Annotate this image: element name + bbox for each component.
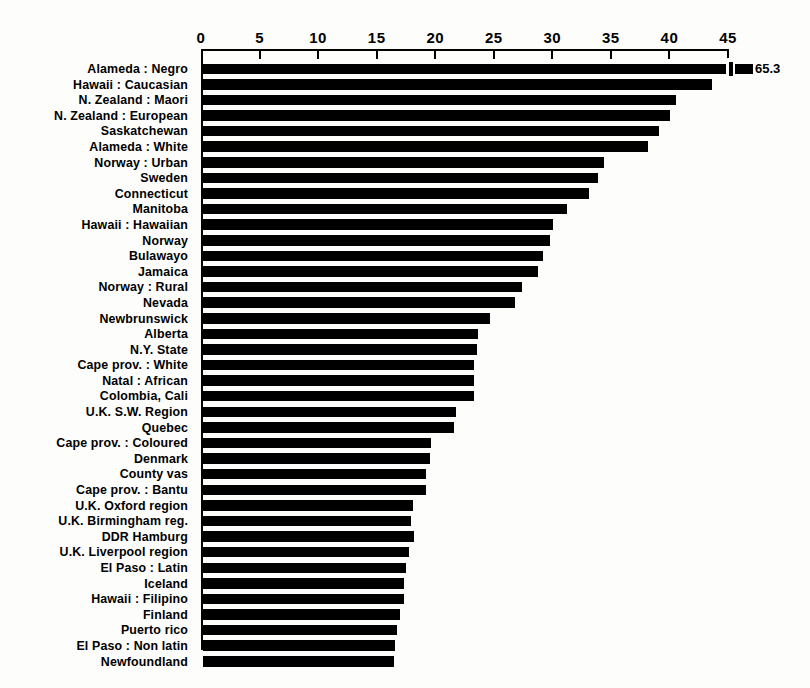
bar-row — [203, 140, 803, 156]
x-axis-tick-mark — [493, 50, 495, 59]
bar — [203, 547, 409, 558]
bar — [203, 500, 413, 511]
x-axis-tick-label: 35 — [602, 30, 620, 45]
bar — [203, 204, 567, 215]
bar-chart-figure: 051015202530354045 Alameda : NegroHawaii… — [0, 0, 810, 688]
bar-row — [203, 358, 803, 374]
bar — [203, 469, 426, 480]
category-label: Bulawayo — [0, 249, 196, 265]
category-label: Hawaii : Caucasian — [0, 78, 196, 94]
bar — [203, 235, 550, 246]
bar-row — [203, 639, 803, 655]
bar — [203, 95, 676, 106]
category-label: Norway : Urban — [0, 156, 196, 172]
x-axis-tick-mark — [668, 50, 670, 59]
bar — [203, 297, 515, 308]
bar-row — [203, 93, 803, 109]
bar-series: 65.3 — [203, 62, 803, 670]
bar-row — [203, 608, 803, 624]
x-axis-tick-label: 15 — [368, 30, 386, 45]
x-axis-tick-label: 45 — [719, 30, 737, 45]
x-axis-tick-mark — [610, 50, 612, 59]
bar — [203, 563, 406, 574]
category-label: Cape prov. : Coloured — [0, 436, 196, 452]
category-label: DDR Hamburg — [0, 530, 196, 546]
bar-row: 65.3 — [203, 62, 803, 78]
bar — [203, 407, 456, 418]
category-label: U.K. S.W. Region — [0, 405, 196, 421]
bar — [203, 344, 477, 355]
bar-row — [203, 312, 803, 328]
bar — [203, 656, 394, 667]
bar-row — [203, 421, 803, 437]
bar — [203, 485, 426, 496]
bar-row — [203, 109, 803, 125]
x-axis-tick-mark — [317, 50, 319, 59]
bar-row — [203, 592, 803, 608]
bar — [203, 422, 454, 433]
bar — [203, 438, 431, 449]
bar — [203, 141, 648, 152]
category-label: Denmark — [0, 452, 196, 468]
bar — [203, 578, 404, 589]
category-label: Hawaii : Filipino — [0, 592, 196, 608]
category-label: N. Zealand : Maori — [0, 93, 196, 109]
bar — [203, 391, 474, 402]
bar-row — [203, 545, 803, 561]
category-label: Quebec — [0, 421, 196, 437]
x-axis-right-cap — [727, 49, 729, 58]
bar-row — [203, 187, 803, 203]
bar — [203, 219, 553, 230]
category-label: Alberta — [0, 327, 196, 343]
bar-row — [203, 577, 803, 593]
bar — [203, 79, 712, 90]
x-axis-tick-mark — [259, 50, 261, 59]
bar-row — [203, 530, 803, 546]
category-label: Nevada — [0, 296, 196, 312]
category-label: Finland — [0, 608, 196, 624]
bar-row — [203, 452, 803, 468]
bar — [203, 266, 538, 277]
x-axis-tick-label: 20 — [426, 30, 444, 45]
bar — [203, 516, 411, 527]
bar — [203, 375, 474, 386]
bar — [203, 329, 478, 340]
x-axis-tick-mark — [434, 50, 436, 59]
bar — [203, 173, 598, 184]
category-label: Norway — [0, 234, 196, 250]
category-label: U.K. Oxford region — [0, 499, 196, 515]
bar — [203, 126, 659, 137]
x-axis-tick-mark — [376, 50, 378, 59]
bar-row — [203, 156, 803, 172]
category-label: N.Y. State — [0, 343, 196, 359]
bar-row — [203, 623, 803, 639]
bar-row — [203, 78, 803, 94]
bar-row — [203, 514, 803, 530]
bar — [203, 531, 414, 542]
bar-row — [203, 483, 803, 499]
category-label: Hawaii : Hawaiian — [0, 218, 196, 234]
bar-row — [203, 327, 803, 343]
bar-row — [203, 280, 803, 296]
bar-row — [203, 124, 803, 140]
category-label: Jamaica — [0, 265, 196, 281]
category-label: Cape prov. : White — [0, 358, 196, 374]
category-label: U.K. Liverpool region — [0, 545, 196, 561]
bar-row — [203, 249, 803, 265]
category-label: Alameda : Negro — [0, 62, 196, 78]
bar — [203, 110, 670, 121]
bar — [203, 157, 604, 168]
category-label: U.K. Birmingham reg. — [0, 514, 196, 530]
bar-row — [203, 655, 803, 671]
bar-row — [203, 296, 803, 312]
category-label: Saskatchewan — [0, 124, 196, 140]
x-axis-tick-label: 40 — [661, 30, 679, 45]
x-axis-tick-label: 30 — [543, 30, 561, 45]
x-axis-tick-mark — [551, 50, 553, 59]
bar — [203, 251, 543, 262]
bar-row — [203, 405, 803, 421]
bar-row — [203, 467, 803, 483]
bar-row — [203, 202, 803, 218]
bar — [203, 640, 395, 651]
category-label: Norway : Rural — [0, 280, 196, 296]
